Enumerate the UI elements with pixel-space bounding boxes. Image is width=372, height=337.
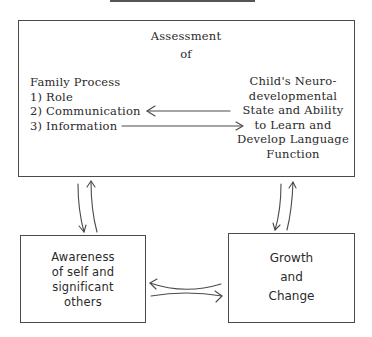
child-line-3: State and Ability bbox=[234, 103, 352, 118]
child-neurodevelopment-block: Child's Neuro- developmental State and A… bbox=[234, 74, 352, 161]
arrow-up-left-pair-icon bbox=[87, 181, 97, 232]
child-line-2: developmental bbox=[234, 89, 352, 104]
top-rule-line bbox=[110, 0, 255, 2]
family-process-item-role: 1) Role bbox=[30, 90, 141, 105]
family-process-item-communication: 2) Communication bbox=[30, 104, 141, 119]
family-process-block: Family Process 1) Role 2) Communication … bbox=[30, 75, 141, 133]
awareness-line-1: Awareness bbox=[20, 250, 146, 265]
assessment-title-line2: of bbox=[136, 47, 236, 62]
awareness-text: Awareness of self and significant others bbox=[20, 250, 146, 310]
arrow-right-bottom-pair-icon bbox=[151, 291, 222, 302]
and-line: and bbox=[228, 268, 355, 287]
assessment-title-line1: Assessment bbox=[136, 29, 236, 44]
awareness-line-4: others bbox=[20, 295, 146, 310]
child-line-5: Develop Language bbox=[234, 132, 352, 147]
growth-change-text: Growth and Change bbox=[228, 249, 355, 306]
family-process-item-information: 3) Information bbox=[30, 119, 141, 134]
arrow-left-bottom-pair-icon bbox=[150, 279, 221, 289]
child-line-1: Child's Neuro- bbox=[234, 74, 352, 89]
awareness-line-2: of self and bbox=[20, 265, 146, 280]
growth-line: Growth bbox=[228, 249, 355, 268]
child-line-4: to Learn and bbox=[234, 118, 352, 133]
assessment-title: Assessment of bbox=[136, 29, 236, 61]
change-line: Change bbox=[228, 287, 355, 306]
arrow-down-left-pair-icon bbox=[78, 184, 86, 232]
family-process-heading: Family Process bbox=[30, 75, 141, 90]
child-line-6: Function bbox=[234, 147, 352, 162]
arrow-up-right-pair-icon bbox=[287, 182, 296, 230]
arrow-down-right-pair-icon bbox=[273, 184, 281, 230]
awareness-line-3: significant bbox=[20, 280, 146, 295]
